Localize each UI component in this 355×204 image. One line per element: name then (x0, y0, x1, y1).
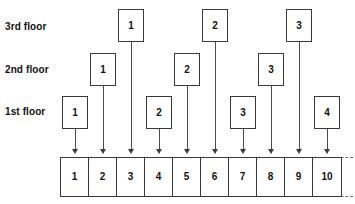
strip-cell: 5 (173, 158, 201, 196)
strip-cell: 6 (201, 158, 229, 196)
arrowhead-f1-r2 (156, 149, 162, 154)
room-box-f3-r2: 2 (202, 9, 228, 42)
arrowhead-f1-r3 (240, 149, 246, 154)
strip-cell: 2 (89, 158, 117, 196)
strip-cell: 10 (313, 158, 341, 196)
connector-line-f2-r1 (103, 86, 104, 149)
arrowhead-f2-r3 (268, 149, 274, 154)
room-box-f1-r3: 3 (230, 96, 256, 129)
room-box-f2-r1: 1 (90, 53, 116, 86)
connector-line-f1-r1 (75, 129, 76, 149)
position-strip: 12345678910 (60, 157, 342, 197)
room-box-f3-r3: 3 (286, 9, 312, 42)
floor-label-2nd: 2nd floor (5, 65, 49, 75)
strip-cell: 8 (257, 158, 285, 196)
room-box-f2-r3: 3 (258, 53, 284, 86)
connector-line-f1-r3 (243, 129, 244, 149)
connector-line-f2-r2 (187, 86, 188, 149)
strip-cell: 1 (61, 158, 89, 196)
room-box-f1-r2: 2 (146, 96, 172, 129)
room-box-f3-r1: 1 (118, 9, 144, 42)
strip-cell: 3 (117, 158, 145, 196)
connector-line-f1-r4 (327, 129, 328, 149)
room-box-f2-r2: 2 (174, 53, 200, 86)
floor-label-3rd: 3rd floor (5, 22, 46, 32)
arrowhead-f3-r2 (212, 149, 218, 154)
arrowhead-f3-r1 (128, 149, 134, 154)
strip-cell: 7 (229, 158, 257, 196)
strip-cell: 4 (145, 158, 173, 196)
room-box-f1-r1: 1 (62, 96, 88, 129)
floor-label-1st: 1st floor (5, 107, 45, 117)
arrowhead-f1-r4 (324, 149, 330, 154)
arrowhead-f1-r1 (72, 149, 78, 154)
connector-line-f3-r1 (131, 42, 132, 149)
arrowhead-f3-r3 (296, 149, 302, 154)
arrowhead-f2-r1 (100, 149, 106, 154)
strip-cell: 9 (285, 158, 313, 196)
room-box-f1-r4: 4 (314, 96, 340, 129)
arrowhead-f2-r2 (184, 149, 190, 154)
connector-line-f3-r2 (215, 42, 216, 149)
connector-line-f2-r3 (271, 86, 272, 149)
connector-line-f3-r3 (299, 42, 300, 149)
diagram-canvas: 3rd floor 2nd floor 1st floor 1112223334… (0, 0, 355, 204)
connector-line-f1-r2 (159, 129, 160, 149)
